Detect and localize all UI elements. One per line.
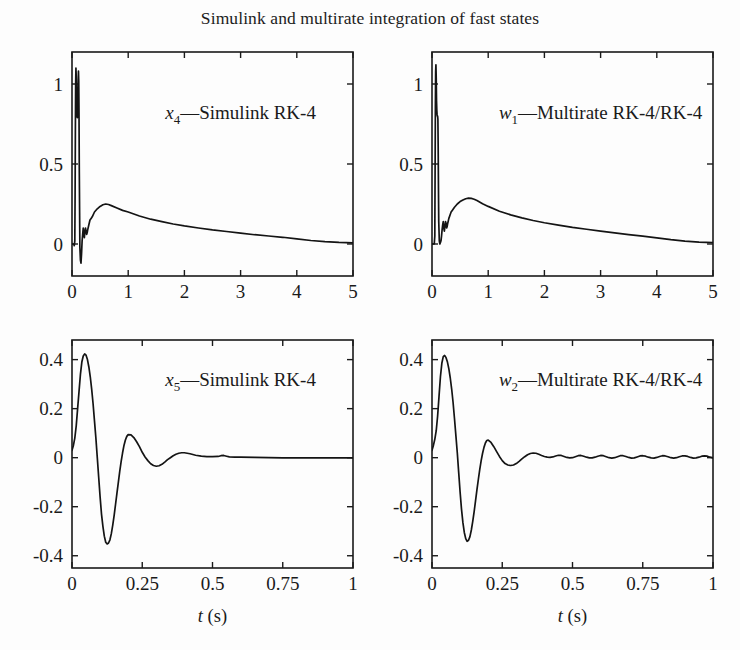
x-tick-label: 5 xyxy=(708,281,718,302)
chart-panel-x5: 00.250.50.751-0.4-0.200.20.4x5—Simulink … xyxy=(20,328,365,640)
y-tick-label: 0.2 xyxy=(39,398,63,419)
y-tick-label: -0.2 xyxy=(393,496,423,517)
x-tick-label: 2 xyxy=(540,281,550,302)
x-tick-label: 1 xyxy=(348,573,358,594)
y-tick-label: -0.4 xyxy=(393,545,424,566)
x-tick-label: 1 xyxy=(483,281,493,302)
y-tick-label: -0.4 xyxy=(33,545,64,566)
plot-area: 00.250.50.751-0.4-0.200.20.4x5—Simulink … xyxy=(20,328,365,640)
x-tick-label: 1 xyxy=(123,281,133,302)
plot-area: 00.250.50.751-0.4-0.200.20.4w2—Multirate… xyxy=(380,328,725,640)
y-tick-label: 0 xyxy=(414,234,424,255)
x-tick-label: 0.75 xyxy=(266,573,299,594)
y-tick-label: -0.2 xyxy=(33,496,63,517)
x-tick-label: 0 xyxy=(427,281,437,302)
annotation-symbol: w xyxy=(499,369,512,390)
y-tick-label: 0.5 xyxy=(39,154,63,175)
plot-area: 01234500.51w1—Multirate RK-4/RK-4 xyxy=(380,40,725,320)
x-tick-label: 3 xyxy=(236,281,246,302)
x-tick-label: 0 xyxy=(67,573,77,594)
page-title: Simulink and multirate integration of fa… xyxy=(0,8,740,29)
annotation-text: —Simulink RK-4 xyxy=(179,369,316,390)
y-tick-label: 0.4 xyxy=(399,349,423,370)
y-tick-label: 0 xyxy=(54,234,64,255)
x-tick-label: 3 xyxy=(596,281,606,302)
plot-area: 01234500.51x4—Simulink RK-4 xyxy=(20,40,365,320)
y-tick-label: 0.2 xyxy=(399,398,423,419)
x-tick-label: 1 xyxy=(708,573,718,594)
y-tick-label: 0.4 xyxy=(39,349,63,370)
annotation-text: —Simulink RK-4 xyxy=(179,102,316,123)
x-tick-label: 4 xyxy=(292,281,302,302)
x-tick-label: 4 xyxy=(652,281,662,302)
x-tick-label: 0.5 xyxy=(561,573,585,594)
y-tick-label: 0 xyxy=(54,447,64,468)
y-tick-label: 1 xyxy=(54,74,64,95)
chart-panel-w2: 00.250.50.751-0.4-0.200.20.4w2—Multirate… xyxy=(380,328,725,640)
x-axis-label: t (s) xyxy=(558,606,587,627)
x-tick-label: 0.25 xyxy=(486,573,519,594)
chart-panel-x4: 01234500.51x4—Simulink RK-4 xyxy=(20,40,365,320)
y-tick-label: 0.5 xyxy=(399,154,423,175)
x-tick-label: 0 xyxy=(427,573,437,594)
x-axis-label: t (s) xyxy=(198,606,227,627)
figure-canvas: Simulink and multirate integration of fa… xyxy=(0,0,740,650)
x-tick-label: 5 xyxy=(348,281,358,302)
annotation-symbol: w xyxy=(499,102,512,123)
x-tick-label: 2 xyxy=(180,281,190,302)
x-axis-label-units: (s) xyxy=(563,606,587,627)
x-tick-label: 0 xyxy=(67,281,77,302)
y-tick-label: 0 xyxy=(414,447,424,468)
y-tick-label: 1 xyxy=(414,74,424,95)
annotation-text: —Multirate RK-4/RK-4 xyxy=(517,369,703,390)
x-axis-label-units: (s) xyxy=(203,606,227,627)
chart-panel-w1: 01234500.51w1—Multirate RK-4/RK-4 xyxy=(380,40,725,320)
x-tick-label: 0.75 xyxy=(626,573,659,594)
x-tick-label: 0.5 xyxy=(201,573,225,594)
annotation-text: —Multirate RK-4/RK-4 xyxy=(517,102,703,123)
x-tick-label: 0.25 xyxy=(126,573,159,594)
